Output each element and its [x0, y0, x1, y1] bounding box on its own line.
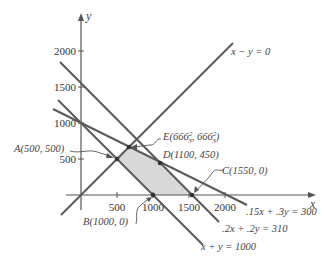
- vertex-c: [190, 193, 195, 198]
- y-tick-500: 500: [60, 153, 77, 165]
- vertex-e: [127, 145, 132, 150]
- y-axis: [78, 13, 84, 210]
- linear-programming-chart: 500 1000 1500 2000 500 1000 1500 2000 x …: [0, 0, 331, 266]
- callout-a: [70, 151, 110, 156]
- label-point-e: E(66623, 66623): [162, 130, 220, 145]
- label-2x-2y-310: .2x + .2y = 310: [222, 223, 288, 234]
- callout-c: [196, 170, 224, 191]
- label-x-minus-y-0: x − y = 0: [230, 46, 271, 57]
- label-point-a: A(500, 500): [13, 143, 65, 155]
- callout-c-arrow-icon: [194, 186, 199, 193]
- vertex-a: [115, 157, 120, 162]
- x-tick-2000: 2000: [214, 201, 237, 213]
- label-point-d: D(1100, 450): [162, 149, 219, 161]
- y-tick-1500: 1500: [54, 81, 77, 93]
- x-tick-500: 500: [109, 201, 126, 213]
- y-axis-arrow-icon: [78, 13, 84, 21]
- x-tick-1500: 1500: [178, 201, 201, 213]
- vertex-d: [158, 161, 163, 166]
- y-axis-label: y: [85, 9, 92, 23]
- label-15x-3y-300: .15x + .3y = 300: [246, 206, 317, 217]
- line-2x-2y-310: [60, 62, 219, 222]
- y-tick-2000: 2000: [54, 45, 77, 57]
- vertex-b: [151, 193, 156, 198]
- label-point-b: B(1000, 0): [83, 216, 128, 228]
- svg-text:E(66623, 66623): E(66623, 66623): [162, 130, 220, 145]
- label-x-plus-y-1000: x + y = 1000: [200, 241, 257, 252]
- label-point-c: C(1550, 0): [222, 165, 268, 177]
